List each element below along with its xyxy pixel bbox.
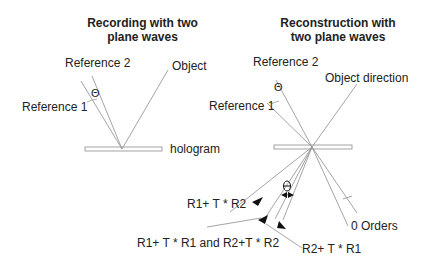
r1-t-r2-label: R1+ T * R2 bbox=[187, 198, 246, 211]
r2-t-r1-label: R2+ T * R1 bbox=[302, 243, 361, 256]
object-direction-line bbox=[312, 84, 357, 147]
reconstruction-title-line2: two plane waves bbox=[263, 30, 413, 44]
object-label: Object bbox=[172, 60, 207, 73]
theta-arc-lower bbox=[284, 181, 291, 191]
arrow-theta-right bbox=[288, 192, 294, 198]
object-direction-label: Object direction bbox=[325, 72, 408, 85]
recording-title-line2: plane waves bbox=[70, 30, 215, 44]
r1-t-r1-and-r2-t-r2-label: R1+ T * R1 and R2+T * R2 bbox=[137, 237, 279, 250]
hologram-label: hologram bbox=[170, 143, 220, 156]
reference1-label-right: Reference 1 bbox=[209, 100, 274, 113]
object-beam-left bbox=[122, 70, 168, 149]
reference1-label-left: Reference 1 bbox=[22, 101, 87, 114]
arrowheads bbox=[252, 192, 294, 229]
theta-label-right: Θ bbox=[274, 81, 283, 94]
recording-title-line1: Recording with two bbox=[70, 16, 215, 30]
reconstruction-title: Reconstruction with two plane waves bbox=[263, 16, 413, 44]
arrow-r2-t-r1 bbox=[277, 221, 286, 229]
reference1-beam-left bbox=[81, 81, 122, 149]
reference2-label-left: Reference 2 bbox=[65, 57, 130, 70]
order-r2-t-r2 bbox=[275, 147, 312, 219]
arrow-r1-r1-r2-r2 bbox=[258, 215, 268, 224]
reconstruction-title-line1: Reconstruction with bbox=[263, 16, 413, 30]
reference2-label-right: Reference 2 bbox=[253, 56, 318, 69]
zero-order-2 bbox=[312, 147, 357, 213]
arrow-r1-t-r2 bbox=[252, 197, 263, 206]
recording-geometry bbox=[81, 70, 168, 151]
hologram-plate-left bbox=[85, 147, 162, 151]
theta-label-left: Θ bbox=[91, 87, 100, 100]
zero-order-1 bbox=[312, 147, 348, 226]
recording-title: Recording with two plane waves bbox=[70, 16, 215, 44]
zero-orders-label: 0 Orders bbox=[351, 220, 398, 233]
